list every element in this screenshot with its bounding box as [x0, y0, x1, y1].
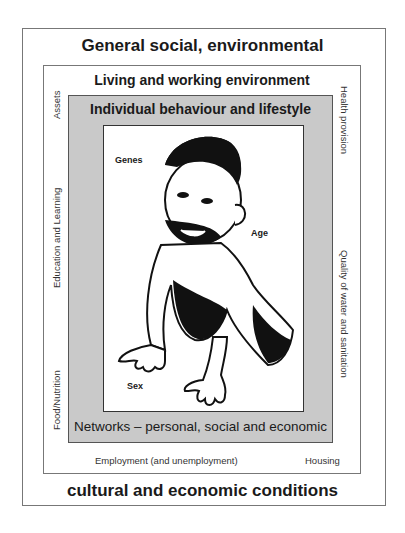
label-water-sanitation: Quality of water and sanitation	[339, 250, 350, 378]
label-food-nutrition: Food/Nutrition	[51, 370, 62, 430]
label-age: Age	[251, 228, 268, 238]
label-housing: Housing	[305, 455, 340, 466]
label-assets: Assets	[51, 90, 62, 119]
outer-layer-title-bottom: cultural and economic conditions	[0, 481, 405, 501]
label-genes: Genes	[115, 155, 143, 165]
individual-behaviour-title: Individual behaviour and lifestyle	[68, 101, 333, 117]
label-education: Education and Learning	[51, 188, 62, 288]
label-employment: Employment (and unemployment)	[95, 455, 238, 466]
label-health-provision: Health provision	[339, 86, 350, 154]
label-sex: Sex	[127, 381, 143, 391]
outer-layer-title-top: General social, environmental	[0, 36, 405, 56]
baby-illustration-icon	[103, 125, 304, 412]
networks-title: Networks – personal, social and economic	[68, 419, 333, 434]
living-working-title: Living and working environment	[43, 72, 361, 88]
